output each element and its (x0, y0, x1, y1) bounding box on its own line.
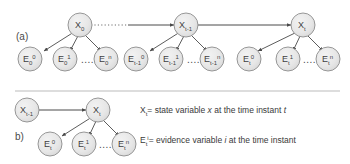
state-node-b-xt-1[interactable]: Xt-1 (15, 98, 39, 122)
evidence-node-e0-n[interactable]: E0n (94, 47, 118, 71)
evidence-ellipsis-0: .... (81, 54, 94, 65)
state-node-xt[interactable]: Xt (291, 13, 315, 37)
panel-a-label: (a) (16, 31, 28, 42)
evidence-node-et-1-n[interactable]: Et-1n (200, 47, 224, 71)
dbn-diagram: (a) (0, 0, 350, 164)
legend: Xt= state variable x at the time instant… (140, 105, 297, 147)
evidence-node-e0-1[interactable]: E01 (53, 47, 77, 71)
evidence-node-et-1[interactable]: Et1 (276, 47, 300, 71)
evidence-node-et-1-0[interactable]: Et-10 (124, 47, 148, 71)
evidence-ellipsis-b: .... (99, 139, 112, 150)
evidence-node-et-n[interactable]: Etn (316, 47, 340, 71)
evidence-node-et-0[interactable]: Et0 (237, 47, 261, 71)
state-node-b-xt[interactable]: Xt (86, 98, 110, 122)
evidence-ellipsis-1: .... (187, 54, 200, 65)
evidence-node-et-1-1[interactable]: Et-11 (159, 47, 183, 71)
state-node-x0[interactable]: X0 (68, 13, 92, 37)
evidence-node-b-et-0[interactable]: Et0 (38, 132, 62, 156)
panel-b: b) Xt-1 Xt Et0 Et1 (15, 98, 136, 156)
legend-line-evidence: Eti= evidence variable i at the time ins… (140, 135, 297, 147)
panel-b-label: b) (15, 131, 24, 142)
panel-a: (a) (16, 13, 340, 71)
evidence-node-e0-0[interactable]: E00 (18, 47, 42, 71)
evidence-node-b-et-n[interactable]: Etn (112, 132, 136, 156)
evidence-ellipsis-2: .... (303, 54, 316, 65)
figure-root: (a) (0, 0, 350, 164)
evidence-node-b-et-1[interactable]: Et1 (72, 132, 96, 156)
legend-line-state: Xt= state variable x at the time instant… (140, 105, 287, 117)
state-node-xt-1[interactable]: Xt-1 (174, 13, 198, 37)
